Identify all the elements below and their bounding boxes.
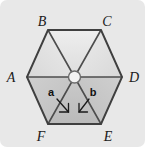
vertex-label-B: B <box>38 14 47 29</box>
vertex-label-C: C <box>102 14 112 29</box>
angle-label-a: a <box>48 86 55 98</box>
vertex-label-E: E <box>103 129 113 144</box>
center-hub-circle <box>69 71 81 83</box>
vertex-label-A: A <box>6 70 16 85</box>
vertex-label-F: F <box>36 129 46 144</box>
hexagon-svg: A B C D E F a b <box>0 0 145 147</box>
vertex-label-D: D <box>128 70 139 85</box>
angle-label-b: b <box>90 86 97 98</box>
hexagon-figure: A B C D E F a b <box>0 0 145 147</box>
